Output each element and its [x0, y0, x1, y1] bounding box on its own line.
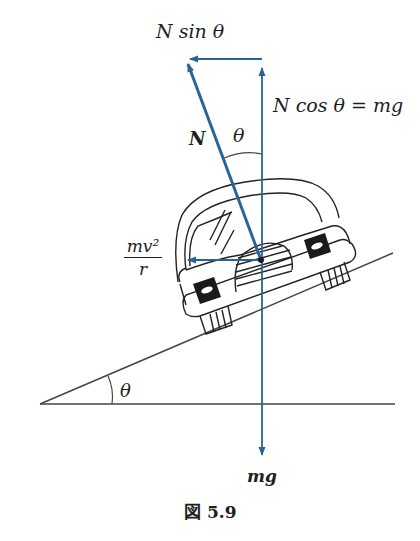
angle-arc-bottom — [108, 376, 113, 404]
headlight-left — [193, 277, 221, 304]
label-n-cos-theta: N cos θ = mg — [273, 94, 403, 116]
center-of-mass-dot — [258, 257, 264, 263]
label-weight: mg — [247, 466, 277, 486]
fraction-denominator: r — [124, 259, 162, 279]
figure-caption: 図 5.9 — [184, 498, 237, 523]
car-illustration — [176, 179, 356, 334]
headlight-right — [304, 233, 331, 259]
incline-line — [40, 253, 393, 404]
angle-arc-top — [224, 153, 262, 158]
label-theta-top: θ — [233, 124, 244, 146]
fraction-bar — [124, 257, 162, 258]
normal-force-vector — [188, 64, 261, 260]
label-centripetal-fraction: mv² r — [124, 236, 162, 279]
label-theta-bottom: θ — [120, 380, 131, 401]
diagram-canvas — [0, 0, 420, 541]
label-n-sin-theta: N sin θ — [156, 20, 224, 42]
banked-curve-force-diagram: N sin θ N cos θ = mg N θ mv² r θ mg 図 5.… — [0, 0, 420, 541]
label-normal-force: N — [189, 128, 205, 149]
fraction-numerator: mv² — [124, 236, 162, 256]
